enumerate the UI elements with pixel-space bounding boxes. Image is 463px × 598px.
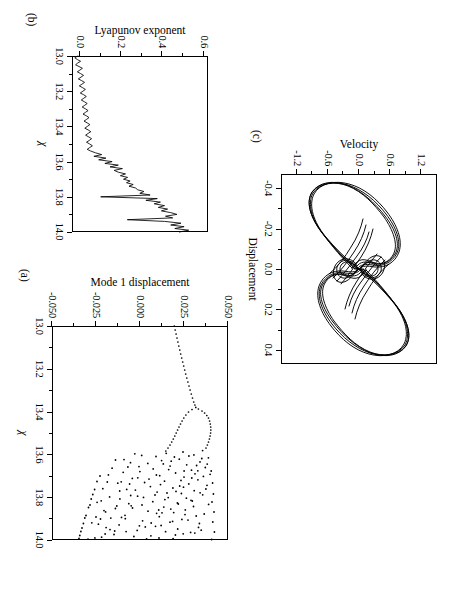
panel-b-ytick xyxy=(203,51,204,56)
panel-c-xtick-label: 0.0 xyxy=(263,263,274,276)
panel-c-y-axis-title: Velocity xyxy=(340,138,378,150)
panel-a-ytick-minor xyxy=(117,323,118,326)
panel-a-ytick xyxy=(183,321,184,326)
panel-a-xtick-label: 14.0 xyxy=(34,531,45,549)
panel-a-xtick-label: 13.4 xyxy=(34,403,45,421)
panel-b-xtick-label: 13.6 xyxy=(54,153,65,171)
panel-c-ytick-label: 0.6 xyxy=(385,140,396,166)
panel-a-ytick xyxy=(95,321,96,326)
panel-a-ytick-minor xyxy=(73,323,74,326)
panel-a-x-axis-title: χ xyxy=(18,430,30,435)
panel-a-ytick-label: 0.050 xyxy=(223,278,234,318)
panel-c-xtick-minor xyxy=(278,208,281,209)
panel-c-ytick-label: -1.2 xyxy=(291,140,302,166)
panel-c-xtick xyxy=(276,350,281,351)
panel-c-xtick-minor xyxy=(278,249,281,250)
panel-a-xtick-label: 13.6 xyxy=(34,446,45,464)
panel-c-xtick-label: -0.2 xyxy=(263,221,274,237)
panel-b-xtick xyxy=(67,91,72,92)
panel-c-ytick-label: -0.6 xyxy=(322,140,333,166)
panel-c-xtick-label: -0.4 xyxy=(263,180,274,196)
panel-a-xtick-label: 13.2 xyxy=(34,360,45,378)
panel-a-ytick-minor xyxy=(161,323,162,326)
panel-c-ytick xyxy=(296,169,297,174)
panel-a-xtick xyxy=(47,454,52,455)
panel-b-xtick-minor xyxy=(69,144,72,145)
panel-c-ytick-label: 1.2 xyxy=(416,140,427,166)
panel-b-ytick-minor xyxy=(100,53,101,56)
panel-b-ytick xyxy=(79,51,80,56)
panel-c-phase-portrait-svg xyxy=(281,174,437,364)
panel-b-x-axis-title: χ xyxy=(38,141,50,146)
panel-a-ytick xyxy=(52,321,53,326)
panel-b-xtick-label: 13.0 xyxy=(54,47,65,65)
panel-a-xtick xyxy=(47,326,52,327)
panel-b-xtick-minor xyxy=(69,74,72,75)
panel-c-ytick xyxy=(389,169,390,174)
panel-b-xtick xyxy=(67,126,72,127)
panel-a-bifurcation-svg xyxy=(52,326,228,540)
panel-b-xtick xyxy=(67,56,72,57)
panel-a-xtick-label: 13.8 xyxy=(34,488,45,506)
panel-b-xtick-label: 13.2 xyxy=(54,82,65,100)
panel-c-ytick xyxy=(327,169,328,174)
panel-a-xtick xyxy=(47,412,52,413)
panel-c-letter: (c) xyxy=(251,130,263,143)
panel-b-xtick-minor xyxy=(69,179,72,180)
panel-a-xtick-minor xyxy=(49,476,52,477)
panel-a-xtick-label: 13.0 xyxy=(34,317,45,335)
panel-c-wrapper: -0.4 -0.2 0.0 0.2 0.4 1.2 0.6 0.0 -0.6 -… xyxy=(245,128,445,418)
panel-c-xtick xyxy=(276,309,281,310)
panel-c-ytick xyxy=(420,169,421,174)
panel-a-xtick xyxy=(47,369,52,370)
panel-c-x-axis-title: Displacement xyxy=(247,237,259,300)
panel-c-xtick-label: 0.2 xyxy=(263,303,274,316)
panel-b-xtick xyxy=(67,162,72,163)
panel-b-ytick-minor xyxy=(182,53,183,56)
panel-b-ytick xyxy=(161,51,162,56)
panel-b-lyapunov-curve-svg xyxy=(72,56,208,232)
panel-a-xtick xyxy=(47,540,52,541)
panel-a-ytick xyxy=(227,321,228,326)
panel-c-ytick-minor xyxy=(342,171,343,174)
panel-c-xtick-minor xyxy=(278,289,281,290)
panel-b-xtick xyxy=(67,197,72,198)
panel-a-letter: (a) xyxy=(19,269,31,282)
panel-a-ytick-minor xyxy=(205,323,206,326)
panel-b-xtick xyxy=(67,232,72,233)
panel-a-ytick-label: -0.050 xyxy=(47,278,58,318)
panel-b-xtick-minor xyxy=(69,214,72,215)
panel-b-letter: (b) xyxy=(26,13,38,26)
panel-c-ytick-minor xyxy=(374,171,375,174)
panel-c-xtick xyxy=(276,269,281,270)
panel-c-xtick xyxy=(276,188,281,189)
panel-c-ytick-minor xyxy=(311,171,312,174)
panel-a-xtick-minor xyxy=(49,433,52,434)
panel-a-xtick-minor xyxy=(49,390,52,391)
panel-b-ytick-minor xyxy=(141,53,142,56)
panel-a: 13.0 13.2 13.4 13.6 13.8 14.0 0.050 0.02… xyxy=(14,268,236,568)
panel-a-xtick-minor xyxy=(49,518,52,519)
panel-c-xtick-minor xyxy=(278,330,281,331)
panel-a-y-axis-title: Mode 1 displacement xyxy=(90,276,189,288)
panel-a-wrapper: 13.0 13.2 13.4 13.6 13.8 14.0 0.050 0.02… xyxy=(14,268,236,568)
panel-b-xtick-label: 14.0 xyxy=(54,223,65,241)
panel-b-y-axis-title: Lyapunov exponent xyxy=(94,24,185,36)
panel-b-wrapper: 13.0 13.2 13.4 13.6 13.8 14.0 0.6 0.4 0.… xyxy=(20,12,216,248)
panel-c-xtick xyxy=(276,229,281,230)
panel-c: -0.4 -0.2 0.0 0.2 0.4 1.2 0.6 0.0 -0.6 -… xyxy=(245,128,445,418)
panel-b-ytick-label: 0.6 xyxy=(198,26,209,48)
panel-a-xtick xyxy=(47,497,52,498)
panel-c-ytick xyxy=(358,169,359,174)
panel-b-ytick xyxy=(120,51,121,56)
panel-b-xtick-label: 13.4 xyxy=(54,118,65,136)
panel-c-xtick-label: 0.4 xyxy=(263,344,274,357)
panel-c-ytick-minor xyxy=(405,171,406,174)
panel-b: 13.0 13.2 13.4 13.6 13.8 14.0 0.6 0.4 0.… xyxy=(20,12,216,248)
panel-a-ytick xyxy=(139,321,140,326)
panel-b-ytick-label: 0.0 xyxy=(74,26,85,48)
figure-page: 13.0 13.2 13.4 13.6 13.8 14.0 0.6 0.4 0.… xyxy=(0,0,463,598)
panel-b-xtick-label: 13.8 xyxy=(54,188,65,206)
panel-b-xtick-minor xyxy=(69,109,72,110)
panel-a-xtick-minor xyxy=(49,347,52,348)
